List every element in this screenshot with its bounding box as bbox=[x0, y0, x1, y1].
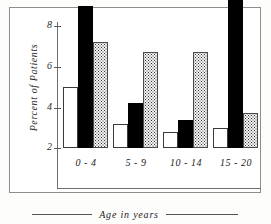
y-tick-mark-2 bbox=[54, 148, 61, 149]
figure-bar-chart: 8 6 4 2 Percent of Patients bbox=[0, 0, 271, 224]
bar-solid-0-4 bbox=[78, 6, 93, 148]
bar-dotted-10-14 bbox=[193, 52, 208, 148]
bar-solid-5-9 bbox=[128, 103, 143, 148]
bar-solid-15-20 bbox=[228, 0, 243, 148]
bar-open-5-9 bbox=[113, 124, 128, 148]
bar-dotted-15-20 bbox=[243, 113, 258, 148]
bar-dotted-5-9 bbox=[143, 52, 158, 148]
y-tick-mark-6 bbox=[54, 67, 61, 68]
bar-group-0-4 bbox=[63, 6, 108, 148]
x-title-rule-right bbox=[166, 214, 238, 215]
y-axis-title: Percent of Patients bbox=[28, 28, 39, 148]
x-tick-label-15-20: 15 - 20 bbox=[203, 157, 269, 168]
bar-group-15-20 bbox=[213, 0, 258, 148]
y-tick-mark-4 bbox=[54, 108, 61, 109]
bar-solid-10-14 bbox=[178, 120, 193, 148]
bar-open-15-20 bbox=[213, 128, 228, 148]
x-axis-title: Age in years bbox=[99, 209, 159, 220]
chart-frame: 8 6 4 2 Percent of Patients bbox=[9, 7, 261, 193]
x-axis-title-row: Age in years bbox=[9, 209, 261, 220]
bar-open-10-14 bbox=[163, 132, 178, 148]
bar-group-10-14 bbox=[163, 52, 208, 148]
bar-group-5-9 bbox=[113, 52, 158, 148]
bar-open-0-4 bbox=[63, 87, 78, 148]
bar-dotted-0-4 bbox=[93, 42, 108, 148]
y-tick-mark-8 bbox=[54, 26, 61, 27]
x-title-rule-left bbox=[32, 214, 92, 215]
x-axis-line bbox=[57, 188, 261, 189]
